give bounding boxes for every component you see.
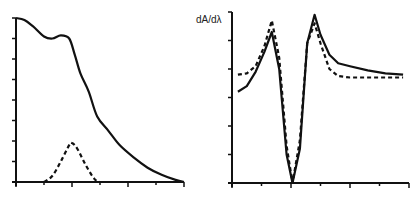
dashed-series (238, 21, 403, 184)
right-chart-ylabel: dA/dλ (196, 14, 222, 25)
chart-canvas (0, 0, 416, 200)
left-chart (12, 18, 184, 187)
dashed-series (44, 143, 100, 182)
solid-series (16, 18, 184, 182)
right-chart (228, 12, 409, 188)
solid-series (238, 15, 403, 183)
